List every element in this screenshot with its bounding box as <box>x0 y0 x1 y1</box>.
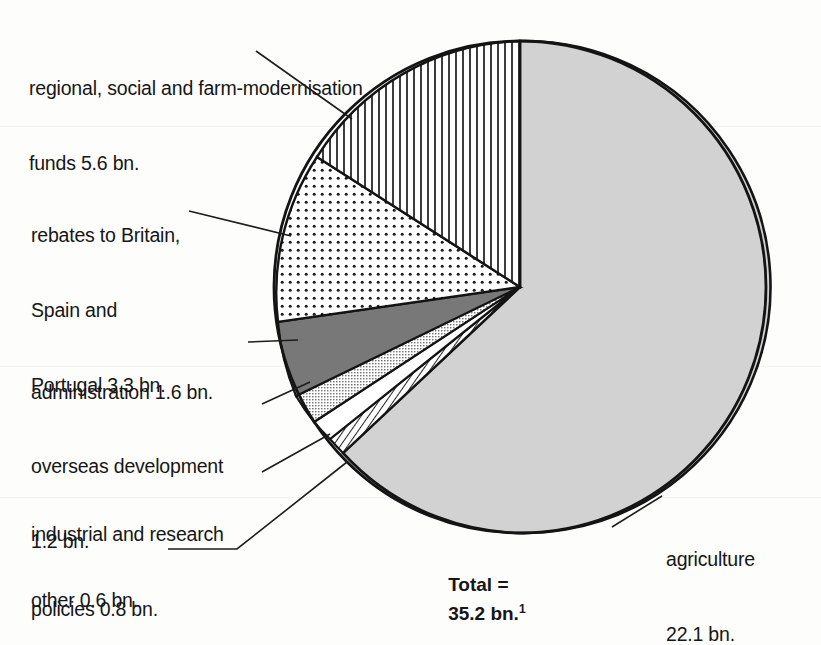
chart-total: Total = 35.2 bn.1 <box>427 547 526 645</box>
leader-line-industrial <box>262 434 330 472</box>
callout-label-regional-line1: regional, social and farm-modernisation <box>29 76 363 101</box>
callout-label-rebates-line2: Spain and <box>31 298 180 323</box>
chart-total-footnote-marker: 1 <box>519 602 526 616</box>
chart-total-prefix: Total = <box>448 574 508 595</box>
callout-label-administration-line1: administration 1.6 bn. <box>31 380 213 405</box>
callout-label-rebates-line1: rebates to Britain, <box>31 223 180 248</box>
callout-label-agriculture: agriculture 22.1 bn. <box>666 497 755 645</box>
callout-label-other-line1: other 0.6 bn. <box>31 588 138 613</box>
callout-label-other: other 0.6 bn. <box>31 538 138 645</box>
callout-label-agriculture-line2: 22.1 bn. <box>666 622 755 645</box>
callout-label-agriculture-line1: agriculture <box>666 547 755 572</box>
chart-total-value: 35.2 bn. <box>448 603 519 624</box>
